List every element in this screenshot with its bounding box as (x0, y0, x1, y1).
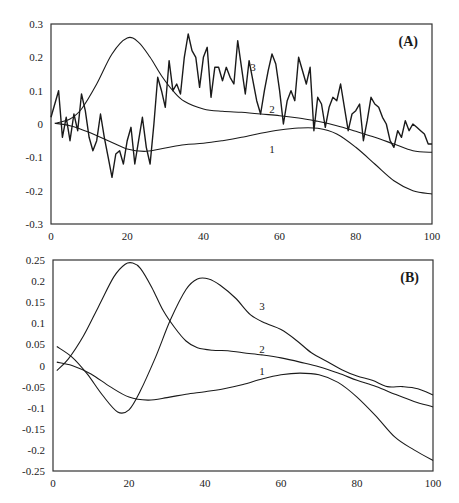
series-1-line (55, 123, 432, 194)
figure: 0.30.20.10-0.1-0.2-0.3020406080100(A)123… (0, 0, 459, 503)
x-tick-label: 80 (350, 230, 362, 242)
y-tick-label: -0.1 (26, 151, 43, 163)
series-3-line (57, 278, 433, 413)
series-3-line (51, 34, 432, 177)
panel-label: (B) (400, 270, 419, 286)
y-tick-label: -0.3 (26, 218, 44, 230)
y-axis-ticks: 0.250.20.150.10.050-0.05-0.1-0.15-0.2-0.… (22, 254, 45, 477)
x-tick-label: 60 (274, 230, 286, 242)
x-tick-label: 20 (124, 477, 136, 489)
x-tick-label: 40 (200, 477, 212, 489)
series-2-label: 2 (269, 103, 275, 115)
plot-frame (51, 24, 432, 224)
y-tick-label: 0.2 (29, 51, 43, 63)
y-tick-label: 0 (38, 118, 44, 130)
y-tick-label: -0.25 (22, 465, 45, 477)
y-tick-label: -0.15 (22, 423, 45, 435)
x-tick-label: 20 (122, 230, 134, 242)
x-axis-ticks: 020406080100 (48, 230, 441, 242)
x-tick-label: 100 (425, 477, 442, 489)
y-tick-label: 0.1 (29, 85, 43, 97)
y-tick-label: 0.2 (31, 275, 45, 287)
x-tick-label: 60 (276, 477, 288, 489)
y-tick-label: -0.2 (28, 444, 45, 456)
x-tick-label: 100 (424, 230, 441, 242)
series-1-label: 1 (259, 365, 265, 377)
y-tick-label: 0.15 (26, 296, 46, 308)
y-tick-label: 0.3 (29, 18, 43, 30)
series-1-line (57, 362, 433, 460)
x-axis-ticks: 020406080100 (50, 477, 442, 489)
y-tick-label: 0.1 (31, 317, 45, 329)
series-3-label: 3 (259, 300, 265, 312)
series-2-label: 2 (259, 343, 265, 355)
panel-label: (A) (399, 34, 419, 50)
y-axis-ticks: 0.30.20.10-0.1-0.2-0.3 (26, 18, 44, 230)
y-tick-label: -0.2 (26, 185, 43, 197)
series-3-label: 3 (250, 61, 256, 73)
chart-panel-a: 0.30.20.10-0.1-0.2-0.3020406080100(A)123 (26, 18, 441, 242)
series-2-line (57, 262, 433, 406)
x-tick-label: 0 (50, 477, 56, 489)
two-panel-line-chart: 0.30.20.10-0.1-0.2-0.3020406080100(A)123… (0, 0, 459, 503)
y-tick-label: -0.1 (28, 402, 45, 414)
y-tick-label: 0.25 (26, 254, 46, 266)
series-1-label: 1 (269, 143, 275, 155)
plot-frame (53, 260, 433, 471)
y-tick-label: 0.05 (26, 338, 46, 350)
series-2-line (55, 37, 432, 152)
x-tick-label: 40 (198, 230, 210, 242)
x-tick-label: 0 (48, 230, 54, 242)
y-tick-label: -0.05 (22, 381, 45, 393)
x-tick-label: 80 (352, 477, 364, 489)
y-tick-label: 0 (40, 360, 46, 372)
chart-panel-b: 0.250.20.150.10.050-0.05-0.1-0.15-0.2-0.… (22, 254, 442, 489)
